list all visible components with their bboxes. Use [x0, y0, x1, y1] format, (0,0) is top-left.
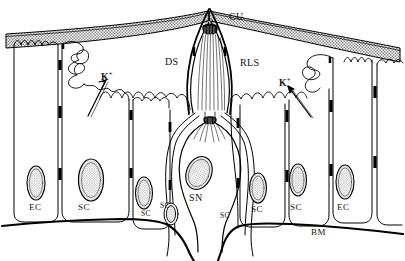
- label-epidermal-cell-right: EC: [337, 203, 349, 212]
- nucleus-sc-right-2: [250, 173, 267, 203]
- label-support-cell-2: SC: [141, 210, 151, 218]
- dendrite-fibers: [198, 35, 225, 111]
- potassium-symbol-left: K: [101, 72, 109, 82]
- neuron-nucleus: [181, 153, 217, 194]
- label-support-cell-3: SC: [160, 202, 170, 210]
- support-cell-right-4: [302, 55, 372, 223]
- potassium-charge-left: +: [109, 70, 113, 77]
- basement-membrane: [2, 219, 403, 261]
- label-basement-membrane: BM: [311, 228, 326, 237]
- epidermal-cell-right: [336, 58, 403, 226]
- potassium-charge-right: +: [287, 76, 291, 83]
- support-cell-left-1: [62, 41, 129, 222]
- sensillum-diagram: CU DS RLS K+ K+ SN EC SC SC SC SC SC SC …: [0, 0, 405, 261]
- label-support-cell-6: SC: [290, 203, 302, 212]
- label-epidermal-cell-left: EC: [29, 203, 41, 212]
- epidermal-cell-left: [14, 41, 58, 223]
- nucleus-sc-left-1: [79, 159, 104, 201]
- potassium-symbol-right: K: [279, 78, 287, 88]
- nucleus-sc-left-2: [136, 177, 153, 209]
- cuticle-attachments: [63, 44, 330, 63]
- nucleus-sc-right-3: [290, 164, 307, 196]
- receptor-lymph-membrane-left: [100, 92, 190, 110]
- label-support-cell-4: SC: [220, 212, 230, 220]
- nucleus-ec-left: [27, 166, 45, 200]
- label-receptor-lymph-space: RLS: [240, 58, 260, 68]
- label-dendritic-sheath: DS: [165, 57, 179, 67]
- label-potassium-left: K+: [101, 71, 113, 83]
- label-support-cell-5: SC: [251, 205, 263, 214]
- label-sensory-neuron: SN: [189, 193, 203, 203]
- nucleus-ec-right: [336, 165, 354, 199]
- label-cuticle: CU: [229, 12, 244, 22]
- diagram-canvas: [0, 0, 405, 261]
- label-support-cell-1: SC: [78, 203, 90, 212]
- label-potassium-right: K+: [279, 77, 291, 89]
